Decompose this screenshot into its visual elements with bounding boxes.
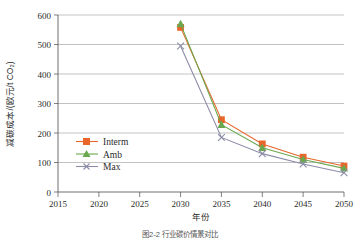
x-tick-label-2030: 2030 [172,199,191,209]
x-tick-label-2025: 2025 [131,199,150,209]
figure-caption: 图2-2 行业碳价情景对比 [142,229,219,239]
square-marker-icon [83,138,90,145]
y-tick-label-300: 300 [38,99,52,109]
abatement-cost-line-chart: 600 500 400 300 200 100 0 2015 2020 2025… [0,0,360,240]
x-axis-title: 年份 [192,212,210,222]
x-tick-label-2050: 2050 [335,199,354,209]
legend-label-interm: Interm [103,137,129,147]
y-tick-label-100: 100 [38,158,52,168]
x-tick-label-2035: 2035 [212,199,231,209]
y-tick-label-400: 400 [38,70,52,80]
y-tick-label-500: 500 [38,40,52,50]
y-tick-label-0: 0 [47,188,52,198]
legend-label-amb: Amb [103,150,122,160]
x-tick-label-2045: 2045 [294,199,313,209]
y-tick-label-600: 600 [38,11,52,21]
legend-label-max: Max [103,162,121,172]
x-tick-label-2020: 2020 [90,199,109,209]
x-tick-label-2015: 2015 [49,199,68,209]
chart-figure: 600 500 400 300 200 100 0 2015 2020 2025… [0,0,360,240]
x-tick-label-2040: 2040 [253,199,272,209]
y-tick-label-200: 200 [38,129,52,139]
y-axis-title: 减碳成本/(欧元/t CO₂) [5,61,15,146]
